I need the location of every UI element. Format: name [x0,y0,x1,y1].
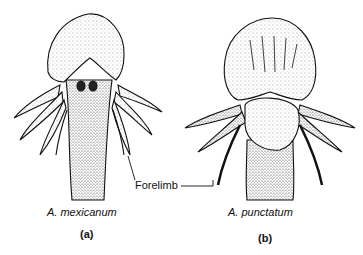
panel-label-a: (a) [80,228,93,240]
figure: Forelimb A. mexicanum A. punctatum (a) (… [0,0,363,255]
panel-label-b: (b) [258,232,272,244]
species-label-b: A. punctatum [228,206,293,218]
punctatum-drawing [185,18,355,200]
mexicanum-drawing [14,14,162,200]
forelimb-label: Forelimb [135,179,178,191]
species-label-a: A. mexicanum [47,206,117,218]
